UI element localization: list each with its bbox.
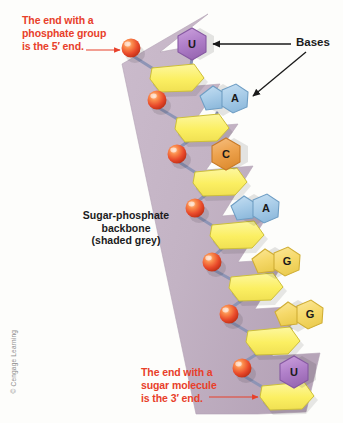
- phosphate-group-2: [148, 91, 167, 110]
- phosphate-specular-2: [150, 94, 156, 99]
- base-letter-U-7: U: [290, 366, 298, 378]
- annotation-three-prime-end: The end with a sugar molecule is the 3′ …: [141, 366, 259, 405]
- label-bases: Bases: [296, 36, 330, 49]
- base-letter-U-1: U: [188, 38, 196, 50]
- phosphate-group-6: [220, 305, 239, 324]
- phosphate-group-4: [186, 199, 205, 218]
- label-sugar-phosphate-backbone: Sugar-phosphate backbone (shaded grey): [70, 209, 182, 247]
- phosphate-specular-6: [222, 308, 228, 313]
- leader-line-bases-lower: [253, 52, 306, 96]
- phosphate-specular-5: [205, 256, 211, 261]
- base-letter-A-4: A: [262, 202, 270, 214]
- base-letter-G-5: G: [283, 255, 292, 267]
- phosphate-specular-4: [188, 202, 194, 207]
- annotation-five-prime-end: The end with a phosphate group is the 5′…: [22, 14, 142, 53]
- rna-strand-figure: U A C: [0, 0, 343, 423]
- base-letter-C-3: C: [222, 148, 230, 160]
- phosphate-group-3: [168, 145, 187, 164]
- copyright-notice: © Cengage Learning: [10, 318, 17, 394]
- phosphate-group-5: [203, 253, 222, 272]
- phosphate-specular-3: [170, 148, 176, 153]
- base-letter-G-6: G: [306, 308, 315, 320]
- base-letter-A-2: A: [231, 92, 239, 104]
